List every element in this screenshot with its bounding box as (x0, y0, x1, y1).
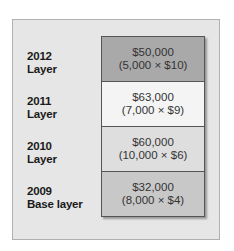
layer-name: Layer (27, 108, 57, 121)
layer-box-2012: $50,000 (5,000 × $10) (102, 37, 204, 82)
layer-year: 2011 (27, 95, 57, 108)
layer-calculation: (10,000 × $6) (119, 149, 188, 162)
layer-name: Layer (27, 63, 57, 76)
layer-label-2012: 2012 Layer (27, 50, 57, 76)
layer-year: 2009 (27, 185, 83, 198)
layer-amount: $60,000 (132, 136, 174, 149)
layer-box-2010: $60,000 (10,000 × $6) (102, 127, 204, 172)
layer-name: Base layer (27, 198, 83, 211)
layer-stack: $50,000 (5,000 × $10) $63,000 (7,000 × $… (101, 36, 205, 217)
layer-box-2009: $32,000 (8,000 × $4) (102, 172, 204, 216)
layers-diagram-panel: 2012 Layer 2011 Layer 2010 Layer 2009 Ba… (12, 19, 220, 240)
layer-year: 2010 (27, 140, 57, 153)
layer-label-2010: 2010 Layer (27, 140, 57, 166)
layer-label-2011: 2011 Layer (27, 95, 57, 121)
layer-label-2009: 2009 Base layer (27, 185, 83, 211)
layer-calculation: (5,000 × $10) (119, 59, 188, 72)
layer-amount: $63,000 (132, 91, 174, 104)
layer-amount: $50,000 (132, 46, 174, 59)
layer-calculation: (8,000 × $4) (122, 194, 184, 207)
layer-box-2011: $63,000 (7,000 × $9) (102, 82, 204, 127)
layer-year: 2012 (27, 50, 57, 63)
layer-name: Layer (27, 153, 57, 166)
layer-calculation: (7,000 × $9) (122, 104, 184, 117)
layer-amount: $32,000 (132, 181, 174, 194)
